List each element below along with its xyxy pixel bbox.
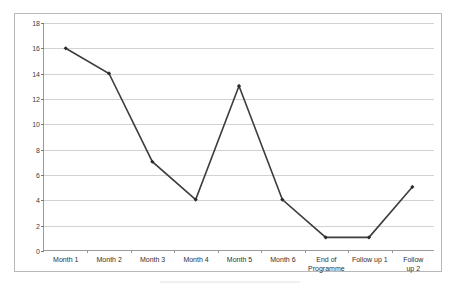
x-tick-label-3: Month 3 [140, 255, 165, 264]
y-tick-label-0: 0 [36, 248, 40, 255]
x-tick-label-2: Month 2 [97, 255, 122, 264]
x-tick-mark-7 [348, 250, 349, 253]
chart-frame: 024681012141618 Month 1Month 2Month 3Mon… [14, 13, 442, 272]
x-tick-mark-3 [174, 250, 175, 253]
y-tick-label-18: 18 [32, 20, 40, 27]
x-tick-mark-4 [218, 250, 219, 253]
plot-area: 024681012141618 Month 1Month 2Month 3Mon… [43, 23, 434, 251]
x-tick-mark-8 [392, 250, 393, 253]
series-markers [64, 46, 415, 239]
x-tick-mark-6 [305, 250, 306, 253]
y-tick-label-2: 2 [36, 222, 40, 229]
y-tick-label-16: 16 [32, 45, 40, 52]
y-tick-label-12: 12 [32, 96, 40, 103]
series-line [66, 48, 413, 237]
y-tick-label-6: 6 [36, 172, 40, 179]
x-tick-label-8: Follow up 1 [352, 255, 388, 264]
y-tick-label-8: 8 [36, 146, 40, 153]
x-tick-mark-5 [261, 250, 262, 253]
page-artifact [160, 281, 300, 283]
data-point-5 [237, 84, 241, 88]
y-tick-label-14: 14 [32, 70, 40, 77]
line-series-svg [44, 23, 434, 250]
x-tick-label-1: Month 1 [53, 255, 78, 264]
y-tick-mark-0 [41, 251, 44, 252]
x-tick-label-4: Month 4 [183, 255, 208, 264]
x-tick-label-7: End of Programme [308, 255, 345, 273]
y-tick-label-10: 10 [32, 121, 40, 128]
x-tick-mark-2 [131, 250, 132, 253]
x-tick-label-6: Month 6 [270, 255, 295, 264]
y-tick-label-4: 4 [36, 197, 40, 204]
x-tick-mark-1 [87, 250, 88, 253]
x-tick-label-5: Month 5 [227, 255, 252, 264]
x-tick-label-9: Follow up 2 [403, 255, 424, 273]
